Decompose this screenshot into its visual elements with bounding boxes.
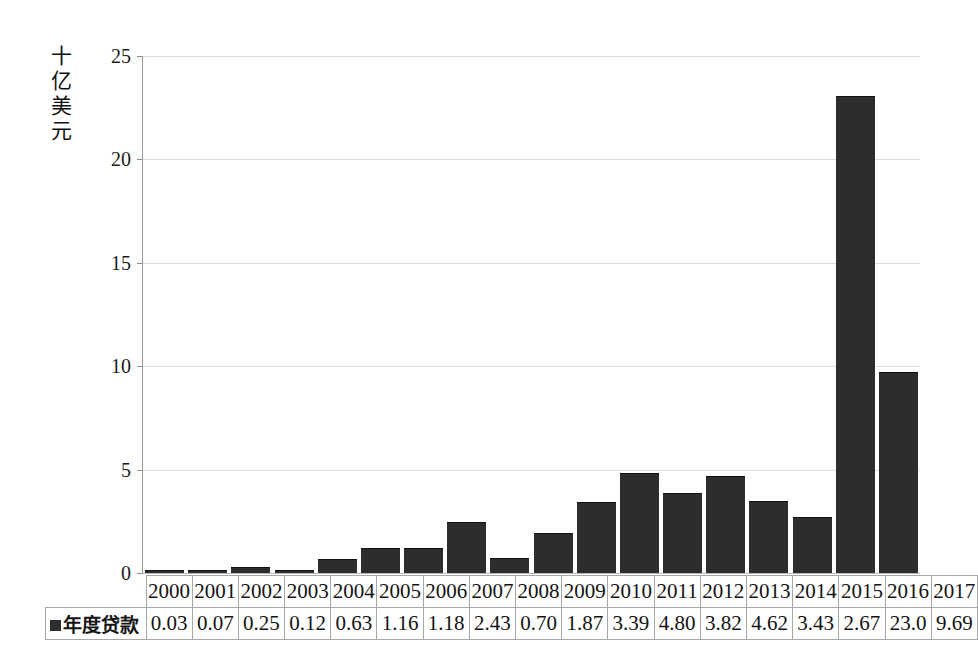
y-axis-title-char-3: 元: [46, 119, 76, 144]
bar-2012[interactable]: [663, 493, 702, 573]
bar-2011[interactable]: [620, 473, 659, 573]
table-header-cell-2011: 2011: [654, 576, 700, 608]
bar-2015[interactable]: [793, 517, 832, 573]
y-axis-tick-label-25: 25: [89, 45, 131, 67]
y-tick-mark-5: [137, 470, 142, 471]
table-header-cell-2014: 2014: [793, 576, 839, 608]
table-header-cell-2005: 2005: [377, 576, 423, 608]
table-value-cell-2009: 1.87: [562, 608, 608, 640]
table-value-cell-2016: 23.0: [885, 608, 931, 640]
table-header-cell-2015: 2015: [839, 576, 885, 608]
table-value-cell-2004: 0.63: [331, 608, 377, 640]
chart-data-table: 2000200120022003200420052006200720082009…: [45, 575, 978, 640]
table-header-cell-2003: 2003: [285, 576, 331, 608]
table-row: 年度贷款 0.030.070.250.120.631.161.182.430.7…: [46, 608, 978, 640]
bar-2013[interactable]: [706, 476, 745, 573]
y-axis-title: 十 亿 美 元: [46, 44, 76, 144]
table-header-cell-2016: 2016: [885, 576, 931, 608]
bars-layer: [143, 56, 920, 573]
table-header-cell-2008: 2008: [516, 576, 562, 608]
bar-2002[interactable]: [231, 567, 270, 573]
table-header-cell-2012: 2012: [700, 576, 746, 608]
y-axis-title-char-1: 亿: [46, 69, 76, 94]
y-axis-tick-label-15: 15: [89, 252, 131, 274]
chart-plot-area: [143, 56, 920, 573]
table-value-cell-2012: 3.82: [700, 608, 746, 640]
bar-2008[interactable]: [490, 558, 529, 573]
table-value-cell-2007: 2.43: [469, 608, 515, 640]
bar-slot-2013: [704, 56, 747, 573]
table-header-cell-2001: 2001: [192, 576, 238, 608]
bar-2003[interactable]: [275, 570, 314, 573]
bar-2001[interactable]: [188, 570, 227, 573]
bar-slot-2016: [834, 56, 877, 573]
table-header-cell-2000: 2000: [146, 576, 192, 608]
legend-entry-annual-loans: 年度贷款: [46, 608, 147, 640]
bar-2004[interactable]: [318, 559, 357, 573]
bar-slot-2010: [575, 56, 618, 573]
legend-label: 年度贷款: [63, 614, 139, 636]
y-axis-tick-label-20: 20: [89, 148, 131, 170]
y-tick-mark-10: [137, 366, 142, 367]
bar-2014[interactable]: [749, 501, 788, 573]
table-value-cell-2017: 9.69: [931, 608, 977, 640]
y-tick-mark-0: [137, 573, 142, 574]
y-axis-title-char-0: 十: [46, 44, 76, 69]
table-value-cell-2006: 1.18: [423, 608, 469, 640]
bar-slot-2000: [143, 56, 186, 573]
table-header-cell-2007: 2007: [469, 576, 515, 608]
bar-slot-2017: [877, 56, 920, 573]
table-header-cell-2013: 2013: [746, 576, 792, 608]
table-value-cell-2005: 1.16: [377, 608, 423, 640]
table-value-cell-2013: 4.62: [746, 608, 792, 640]
table-header-cell-2006: 2006: [423, 576, 469, 608]
table-value-cell-2001: 0.07: [192, 608, 238, 640]
bar-2006[interactable]: [404, 548, 443, 573]
bar-slot-2006: [402, 56, 445, 573]
bar-2009[interactable]: [534, 533, 573, 573]
bar-2017[interactable]: [879, 372, 918, 573]
table-header-cell-2010: 2010: [608, 576, 654, 608]
bar-2007[interactable]: [447, 522, 486, 573]
bar-2005[interactable]: [361, 548, 400, 573]
y-tick-mark-15: [137, 263, 142, 264]
table-value-cell-2010: 3.39: [608, 608, 654, 640]
y-tick-mark-25: [137, 56, 142, 57]
y-tick-mark-20: [137, 159, 142, 160]
bar-slot-2014: [747, 56, 790, 573]
table-value-cell-2011: 4.80: [654, 608, 700, 640]
bar-slot-2007: [445, 56, 488, 573]
table-value-cell-2014: 3.43: [793, 608, 839, 640]
gridline-0: [143, 573, 920, 574]
table-value-cell-2008: 0.70: [516, 608, 562, 640]
bar-slot-2012: [661, 56, 704, 573]
table-header-cell-2009: 2009: [562, 576, 608, 608]
legend-swatch-icon: [50, 620, 61, 631]
table-corner-blank: [46, 576, 147, 608]
bar-slot-2009: [532, 56, 575, 573]
bar-slot-2015: [791, 56, 834, 573]
bar-slot-2001: [186, 56, 229, 573]
table-value-cell-2003: 0.12: [285, 608, 331, 640]
y-axis-tick-label-10: 10: [89, 355, 131, 377]
bar-2016[interactable]: [836, 96, 875, 573]
y-axis-title-char-2: 美: [46, 94, 76, 119]
bar-2010[interactable]: [577, 502, 616, 573]
y-axis-tick-label-5: 5: [89, 459, 131, 481]
table-header-cell-2002: 2002: [238, 576, 284, 608]
bar-slot-2005: [359, 56, 402, 573]
table-value-cell-2002: 0.25: [238, 608, 284, 640]
table-header-cell-2004: 2004: [331, 576, 377, 608]
bar-slot-2002: [229, 56, 272, 573]
bar-2000[interactable]: [145, 570, 184, 573]
table-header-row: 2000200120022003200420052006200720082009…: [46, 576, 978, 608]
table-value-cell-2000: 0.03: [146, 608, 192, 640]
bar-slot-2003: [273, 56, 316, 573]
table-header-cell-2017: 2017: [931, 576, 977, 608]
bar-slot-2004: [316, 56, 359, 573]
table-value-cell-2015: 2.67: [839, 608, 885, 640]
bar-slot-2008: [488, 56, 531, 573]
bar-slot-2011: [618, 56, 661, 573]
